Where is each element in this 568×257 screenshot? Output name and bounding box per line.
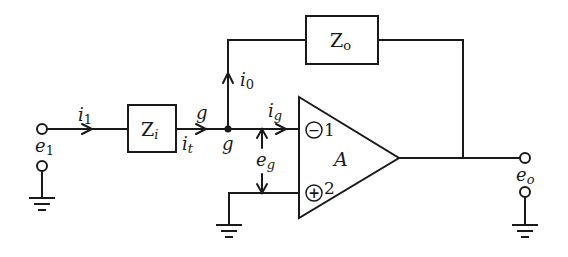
op-amp-circuit-diagram: Zi Zo i1 e1 g it g i0 ig eg − 1 + 2 A eo (0, 0, 568, 257)
inverting-pin-number: 1 (324, 120, 335, 140)
output-terminal-top (520, 153, 530, 163)
it-label: it (182, 133, 194, 156)
output-terminal-bottom (520, 187, 530, 197)
inverting-symbol: − (308, 122, 320, 138)
i0-label: i0 (240, 69, 254, 92)
eg-down-arrow-icon (257, 174, 267, 193)
noninverting-pin-number: 2 (324, 178, 335, 198)
node-g-dot (225, 126, 232, 133)
node-g-bottom-label: g (222, 133, 234, 154)
input-terminal-bottom (37, 161, 47, 171)
eg-up-arrow-icon (257, 129, 267, 148)
output-ground-icon (513, 225, 537, 237)
input-terminal-top (37, 124, 47, 134)
noninverting-symbol: + (308, 185, 320, 201)
i1-label: i1 (78, 104, 92, 127)
input-ground-icon (30, 198, 54, 210)
eg-label: eg (256, 149, 275, 172)
e1-label: e1 (35, 135, 54, 158)
noninverting-ground-icon (217, 225, 241, 237)
ig-label: ig (268, 100, 282, 123)
node-g-top-label: g (196, 102, 208, 123)
amplifier-gain-label: A (332, 148, 348, 170)
eo-label: eo (516, 164, 535, 187)
